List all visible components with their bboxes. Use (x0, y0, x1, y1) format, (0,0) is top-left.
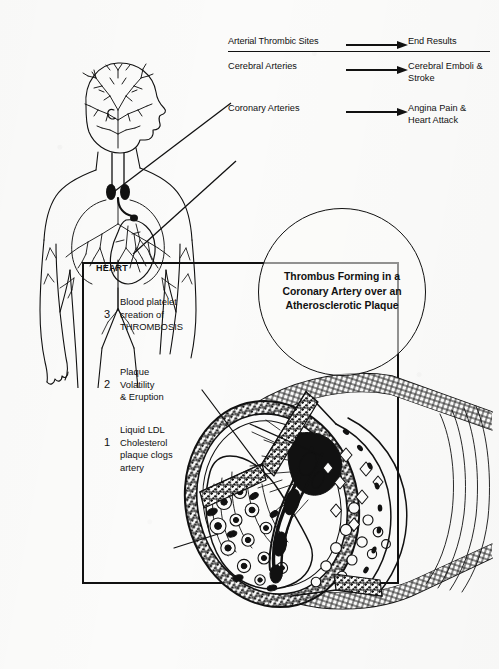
legend-number: 3 (104, 296, 120, 321)
callout-text: Thrombus Forming in a Coronary Artery ov… (259, 270, 425, 314)
legend-item: 3 Blood platelet creation of THROMBOSIS (104, 296, 183, 334)
legend-label: Plaque Volatility & Eruption (120, 366, 164, 404)
table-header-sites: Arterial Thrombic Sites (228, 36, 346, 47)
legend-item: 1 Liquid LDL Cholesterol plaque clogs ar… (104, 424, 173, 474)
right-arrow-icon (346, 108, 408, 116)
row-arrow-cell (346, 61, 408, 84)
table-header-results: End Results (408, 36, 490, 47)
coronary-artery-cutaway-cross-section (140, 352, 499, 632)
table-title-right-cell: End Results (408, 36, 490, 47)
right-arrow-icon (346, 41, 408, 49)
legend-number: 1 (104, 424, 120, 449)
thrombus-callout-circle: Thrombus Forming in a Coronary Artery ov… (258, 208, 426, 376)
site-label: Coronary Arteries (228, 103, 346, 114)
result-cell-coronary: Angina Pain & Heart Attack (408, 103, 490, 126)
table-row: Cerebral Arteries Cerebral Emboli & Stro… (228, 61, 490, 84)
arterial-thrombic-sites-table: Arterial Thrombic Sites End Results Cere… (228, 36, 490, 126)
right-arrow-icon (346, 66, 408, 74)
legend-item: 2 Plaque Volatility & Eruption (104, 366, 164, 404)
result-label: Angina Pain & Heart Attack (408, 103, 490, 126)
result-label: Cerebral Emboli & Stroke (408, 61, 490, 84)
site-cell-coronary: Coronary Arteries (228, 103, 346, 114)
table-title-row: Arterial Thrombic Sites End Results (228, 36, 490, 49)
table-row: Coronary Arteries Angina Pain & Heart At… (228, 103, 490, 126)
site-label: Cerebral Arteries (228, 61, 346, 72)
row-arrow-cell (346, 103, 408, 126)
legend-label: Blood platelet creation of THROMBOSIS (120, 296, 183, 334)
table-title-arrow-cell (346, 36, 408, 49)
site-cell-cerebral: Cerebral Arteries (228, 61, 346, 72)
legend-number: 2 (104, 366, 120, 391)
diagram-page: Arterial Thrombic Sites End Results Cere… (0, 0, 499, 669)
table-header-rule (228, 51, 490, 52)
result-cell-cerebral: Cerebral Emboli & Stroke (408, 61, 490, 84)
legend-label: Liquid LDL Cholesterol plaque clogs arte… (120, 424, 173, 474)
table-title-left-cell: Arterial Thrombic Sites (228, 36, 346, 47)
